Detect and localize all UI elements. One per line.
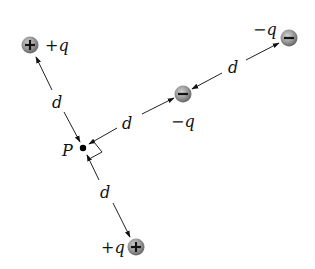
charge-label-middle: −q xyxy=(171,112,195,131)
charge-label-bottom: +q xyxy=(101,238,125,257)
charge-top-left-positive xyxy=(22,37,39,54)
distance-p-to-topleft: d xyxy=(36,57,80,142)
point-p-label: P xyxy=(61,141,73,160)
distance-p-to-bottom: d xyxy=(87,155,130,237)
charge-bottom-positive xyxy=(128,239,145,256)
charge-label-top-right: −q xyxy=(253,20,277,39)
distance-p-to-middle: d xyxy=(89,98,174,144)
distance-middle-to-topright: d xyxy=(192,43,279,89)
charge-top-right-negative xyxy=(281,30,298,47)
charge-label-top-left: +q xyxy=(45,36,69,55)
charge-middle-negative xyxy=(175,86,192,103)
distance-label-d: d xyxy=(100,183,110,202)
distance-label-d: d xyxy=(228,58,238,77)
point-p xyxy=(80,145,86,151)
charge-diagram: d d d d P +q −q −q xyxy=(0,0,315,269)
distance-label-d: d xyxy=(52,93,62,112)
distance-label-d: d xyxy=(122,114,132,133)
right-angle-marker xyxy=(91,142,102,158)
